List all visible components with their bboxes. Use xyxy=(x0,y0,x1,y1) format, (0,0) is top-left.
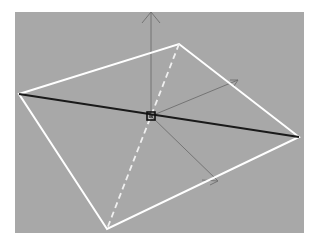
selected-diagonal-edge[interactable] xyxy=(19,94,299,137)
scene-canvas[interactable] xyxy=(0,0,316,244)
quad-plane[interactable] xyxy=(19,44,299,229)
z-axis[interactable] xyxy=(151,116,218,181)
pivot-core xyxy=(149,114,153,118)
x-axis[interactable] xyxy=(151,80,238,116)
transform-gizmo[interactable] xyxy=(142,12,238,185)
dashed-diagonal-edge[interactable] xyxy=(107,44,179,229)
